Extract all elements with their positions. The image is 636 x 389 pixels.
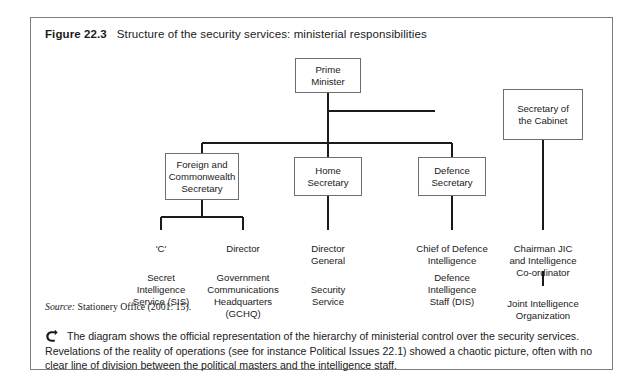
note-text: The diagram shows the official represent… [45, 329, 599, 373]
org-chart-diagram: Prime Minister Secretary of the Cabinet … [31, 18, 614, 308]
node-joint-intelligence-organization: Joint Intelligence Organization [483, 286, 603, 322]
node-c: 'C' [126, 231, 196, 255]
node-gchq-label: Government Communications Headquarters (… [207, 272, 278, 319]
source-text: Stationery Office (2001: 15). [78, 301, 192, 312]
node-security-service: Security Service [288, 272, 368, 308]
node-home-secretary-label: Home Secretary [307, 165, 348, 189]
node-chairman-jic-label: Chairman JIC and Intelligence Co-ordinat… [509, 243, 576, 278]
node-dis-label: Defence Intelligence Staff (DIS) [428, 272, 477, 307]
figure-frame: Figure 22.3Structure of the security ser… [30, 17, 613, 370]
node-defence-secretary: Defence Secretary [418, 157, 486, 196]
source-label: Source: [45, 301, 75, 312]
node-gchq: Government Communications Headquarters (… [195, 260, 291, 320]
node-prime-minister-label: Prime Minister [311, 64, 345, 88]
node-joint-intelligence-organization-label: Joint Intelligence Organization [507, 298, 578, 321]
node-chairman-jic: Chairman JIC and Intelligence Co-ordinat… [488, 231, 598, 279]
right-arrow-bullet-icon [45, 330, 58, 343]
node-director-general-label: Director General [311, 243, 345, 266]
node-defence-secretary-label: Defence Secretary [431, 165, 472, 189]
node-director-general: Director General [288, 231, 368, 267]
node-prime-minister: Prime Minister [295, 58, 361, 93]
node-director-gchq-label: Director [226, 243, 260, 254]
node-foreign-commonwealth-secretary: Foreign and Commonwealth Secretary [165, 153, 239, 200]
node-c-label: 'C' [156, 243, 167, 254]
node-secretary-of-the-cabinet: Secretary of the Cabinet [503, 89, 583, 140]
note-block: The diagram shows the official represent… [45, 329, 599, 373]
node-director-gchq: Director [198, 231, 288, 255]
node-foreign-commonwealth-secretary-label: Foreign and Commonwealth Secretary [169, 159, 236, 195]
node-secretary-of-the-cabinet-label: Secretary of the Cabinet [517, 103, 569, 127]
node-home-secretary: Home Secretary [294, 157, 362, 196]
source-line: Source: Stationery Office (2001: 15). [45, 301, 191, 312]
node-dis: Defence Intelligence Staff (DIS) [412, 260, 492, 308]
node-security-service-label: Security Service [311, 284, 346, 307]
